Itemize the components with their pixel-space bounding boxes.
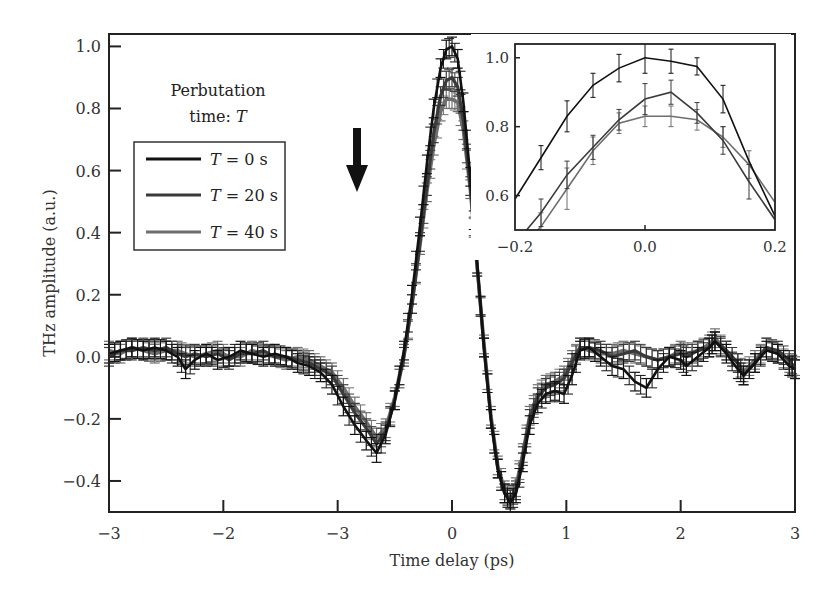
x-tick-label: −3 bbox=[97, 524, 121, 543]
y-tick-label: −0.2 bbox=[62, 410, 101, 429]
legend-value: = 40 s bbox=[221, 223, 278, 242]
inset-chart: −0.20.00.21.00.80.6 bbox=[471, 34, 791, 260]
y-tick-label: 0.0 bbox=[76, 348, 101, 367]
legend-label-t40: T = 40 s bbox=[210, 223, 278, 242]
x-tick-label: −2 bbox=[212, 524, 236, 543]
legend-label-t0: T = 0 s bbox=[210, 150, 268, 169]
inset-y-tick-label: 0.6 bbox=[485, 187, 509, 205]
annotation-line-2: time: T bbox=[189, 107, 248, 126]
annotation-line-2-prefix: time: bbox=[189, 107, 236, 126]
y-tick-label: 0.8 bbox=[76, 99, 101, 118]
legend-value: = 0 s bbox=[221, 150, 268, 169]
annotation-line-1: Perbutation bbox=[170, 81, 265, 100]
legend-value: = 20 s bbox=[221, 186, 278, 205]
y-tick-label: 0.2 bbox=[76, 286, 101, 305]
y-tick-label: 0.6 bbox=[76, 162, 101, 181]
inset-x-tick-label: −0.2 bbox=[497, 238, 533, 256]
annotation-line-2-var: T bbox=[236, 107, 248, 126]
y-axis-label: THz amplitude (a.u.) bbox=[40, 189, 59, 356]
inset-y-tick-label: 0.8 bbox=[485, 118, 509, 136]
chart: −3−2−301231.00.80.60.40.20.0−0.2−0.4 Tim… bbox=[0, 0, 839, 596]
x-tick-label: 2 bbox=[676, 524, 686, 543]
y-tick-label: 0.4 bbox=[76, 224, 101, 243]
x-tick-label: 1 bbox=[561, 524, 571, 543]
y-tick-label: 1.0 bbox=[76, 37, 101, 56]
inset-y-tick-label: 1.0 bbox=[485, 49, 509, 67]
y-tick-label: −0.4 bbox=[62, 472, 101, 491]
legend: T = 0 s T = 20 s T = 40 s bbox=[134, 142, 285, 250]
x-tick-label: −3 bbox=[326, 524, 350, 543]
inset-x-tick-label: 0.2 bbox=[763, 238, 787, 256]
inset-x-tick-label: 0.0 bbox=[633, 238, 657, 256]
x-axis-label: Time delay (ps) bbox=[390, 551, 515, 570]
legend-label-t20: T = 20 s bbox=[210, 186, 278, 205]
x-tick-label: 3 bbox=[790, 524, 800, 543]
x-tick-label: 0 bbox=[447, 524, 457, 543]
